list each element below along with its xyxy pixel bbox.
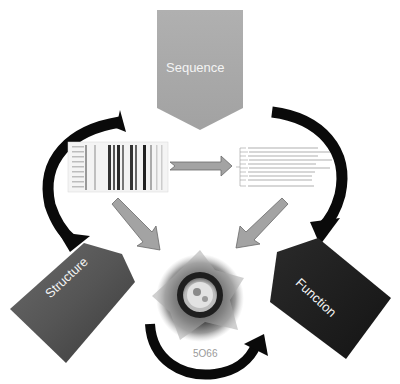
block-arrow-right-diagonal bbox=[236, 198, 288, 248]
block-arrow-horizontal bbox=[170, 156, 232, 176]
block-arrow-left-diagonal bbox=[112, 198, 160, 250]
diagram-canvas bbox=[0, 0, 400, 384]
curved-arrow-right bbox=[272, 112, 342, 245]
sequence-label: Sequence bbox=[166, 60, 225, 75]
tree-panel bbox=[236, 148, 332, 186]
alignment-panel bbox=[68, 142, 168, 192]
function-node bbox=[270, 238, 391, 359]
pdb-id-label: 5O66 bbox=[193, 348, 217, 359]
protein-structure-image bbox=[152, 250, 244, 342]
